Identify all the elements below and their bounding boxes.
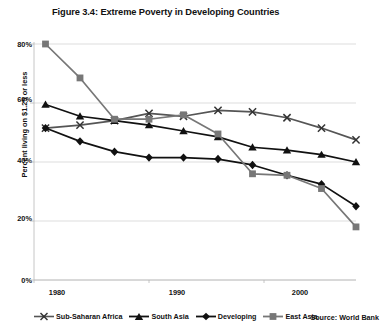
legend-label-developing: Developing [218,312,257,321]
legend-label-sub-saharan-africa: Sub-Saharan Africa [56,312,122,321]
diamond-data-point [76,137,84,145]
legend-item-developing[interactable]: Developing [196,312,257,321]
x-marker-icon [34,312,54,321]
square-data-point [284,172,291,179]
square-marker-icon [263,312,283,321]
diamond-data-point [352,202,360,210]
legend-label-south-asia: South Asia [151,312,188,321]
diamond-data-point [145,153,153,161]
triangle-data-point [41,100,49,107]
diamond-data-point [111,147,119,155]
square-data-point [180,111,187,118]
source-note: Source: World Bank [310,313,379,322]
legend-item-sub-saharan-africa[interactable]: Sub-Saharan Africa [34,312,122,321]
square-data-point [42,41,49,48]
square-data-point [215,131,222,138]
square-data-point [249,170,256,177]
series-east-asia [42,41,359,231]
diamond-data-point [180,153,188,161]
square-data-point [146,116,153,123]
figure-container: Figure 3.4: Extreme Poverty in Developin… [0,0,387,336]
square-data-point [318,185,325,192]
diamond-marker-icon [196,312,216,321]
chart-legend: Sub-Saharan Africa South Asia Developing… [34,312,318,321]
series-south-asia [41,100,360,165]
square-data-point [77,75,84,82]
series-developing [42,124,360,211]
series-lines [41,41,360,231]
square-data-point [111,116,118,123]
triangle-marker-icon [129,312,149,321]
legend-item-south-asia[interactable]: South Asia [129,312,188,321]
square-data-point [353,224,360,231]
chart-plot-area [0,0,387,336]
